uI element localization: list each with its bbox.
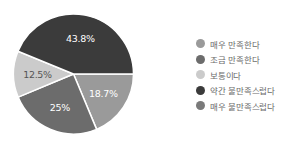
slice-value-label: 12.5% bbox=[23, 69, 52, 80]
legend-swatch-icon bbox=[196, 101, 205, 110]
chart-legend: 매우 만족한다 조금 만족한다 보통이다 약간 불만족스럽다 매우 불만족스럽다 bbox=[196, 36, 275, 114]
legend-swatch-icon bbox=[196, 70, 205, 79]
legend-item-very-satisfied: 매우 만족한다 bbox=[196, 36, 275, 52]
legend-label: 보통이다 bbox=[210, 69, 241, 81]
legend-label: 조금 만족한다 bbox=[210, 53, 259, 65]
legend-swatch-icon bbox=[196, 86, 205, 95]
legend-label: 매우 만족한다 bbox=[210, 38, 259, 50]
legend-label: 약간 불만족스럽다 bbox=[210, 84, 275, 96]
legend-swatch-icon bbox=[196, 39, 205, 48]
legend-item-neutral: 보통이다 bbox=[196, 67, 275, 83]
legend-label: 매우 불만족스럽다 bbox=[210, 100, 275, 112]
slice-value-label: 43.8% bbox=[66, 33, 95, 44]
legend-item-somewhat-dissatisfied: 약간 불만족스럽다 bbox=[196, 83, 275, 99]
legend-item-somewhat-satisfied: 조금 만족한다 bbox=[196, 52, 275, 68]
pie-chart: 18.7%25%12.5%43.8% bbox=[0, 0, 150, 145]
slice-value-label: 18.7% bbox=[89, 88, 118, 99]
legend-item-very-dissatisfied: 매우 불만족스럽다 bbox=[196, 98, 275, 114]
legend-swatch-icon bbox=[196, 55, 205, 64]
slice-value-label: 25% bbox=[50, 102, 70, 113]
